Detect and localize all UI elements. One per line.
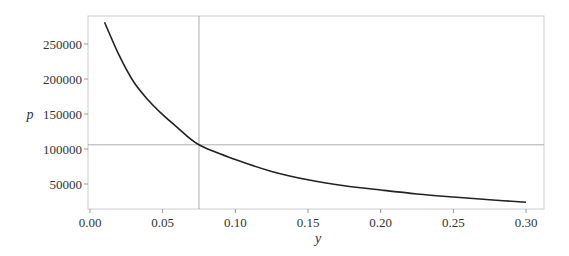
plot-border [88, 16, 544, 209]
line-series [105, 22, 526, 202]
x-axis: 0.000.050.100.150.200.250.30 [79, 209, 538, 230]
x-tick-label: 0.15 [297, 215, 320, 230]
x-tick-label: 0.30 [515, 215, 538, 230]
x-axis-label: y [313, 231, 322, 246]
reference-lines [88, 16, 544, 209]
data-series [105, 22, 526, 202]
y-tick-label: 100000 [43, 142, 82, 157]
y-tick-label: 250000 [43, 37, 82, 52]
x-tick-label: 0.05 [151, 215, 174, 230]
y-tick-label: 200000 [43, 72, 82, 87]
chart: 0.000.050.100.150.200.250.30 50000100000… [0, 0, 569, 256]
y-tick-label: 150000 [43, 107, 82, 122]
x-tick-label: 0.00 [79, 215, 102, 230]
x-tick-label: 0.20 [369, 215, 392, 230]
y-tick-label: 50000 [50, 177, 83, 192]
plot-area [88, 16, 544, 209]
x-tick-label: 0.10 [224, 215, 247, 230]
y-axis-label: p [26, 107, 34, 122]
y-axis: 50000100000150000200000250000 [43, 37, 88, 192]
x-tick-label: 0.25 [442, 215, 465, 230]
